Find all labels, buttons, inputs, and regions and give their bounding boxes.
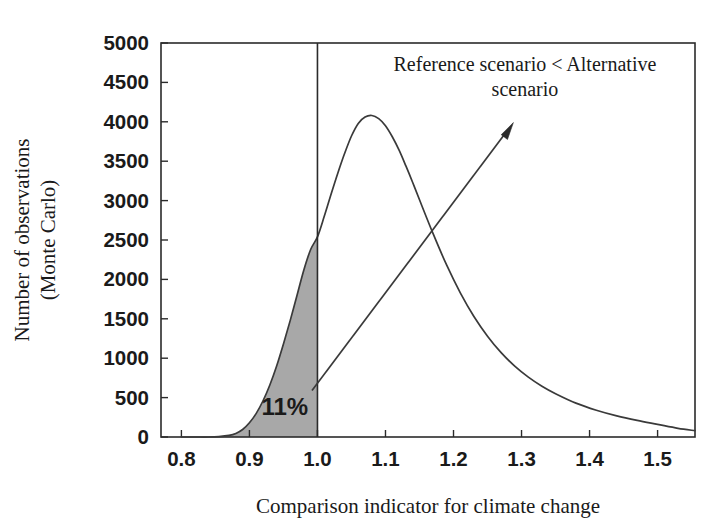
y-tick-label: 4500 xyxy=(103,70,149,93)
distribution-chart: 0500100015002000250030003500400045005000… xyxy=(0,0,728,532)
x-tick-label: 1.0 xyxy=(303,447,332,470)
y-axis-title-line-1: Number of observations xyxy=(10,139,34,342)
x-tick-label: 0.8 xyxy=(167,447,196,470)
y-tick-label: 2000 xyxy=(103,267,149,290)
y-tick-label: 2500 xyxy=(103,228,149,251)
y-tick-label: 5000 xyxy=(103,31,149,54)
callout-text-line-2: scenario xyxy=(492,78,559,100)
x-tick-label: 1.5 xyxy=(643,447,672,470)
y-axis-title-line-2: (Monte Carlo) xyxy=(36,180,60,301)
x-axis-title: Comparison indicator for climate change xyxy=(256,494,600,518)
x-tick-label: 0.9 xyxy=(235,447,264,470)
chart-figure: 0500100015002000250030003500400045005000… xyxy=(0,0,728,532)
x-tick-label: 1.3 xyxy=(507,447,536,470)
y-tick-label: 4000 xyxy=(103,110,149,133)
y-tick-label: 1500 xyxy=(103,307,149,330)
y-tick-label: 3500 xyxy=(103,149,149,172)
x-tick-label: 1.4 xyxy=(575,447,604,470)
x-tick-label: 1.1 xyxy=(371,447,400,470)
x-tick-label: 1.2 xyxy=(439,447,468,470)
callout-text-line-1: Reference scenario < Alternative xyxy=(394,53,657,75)
y-tick-label: 0 xyxy=(138,425,149,448)
y-tick-label: 1000 xyxy=(103,346,149,369)
y-tick-label: 500 xyxy=(115,386,149,409)
percent-label: 11% xyxy=(261,393,308,420)
y-tick-label: 3000 xyxy=(103,189,149,212)
